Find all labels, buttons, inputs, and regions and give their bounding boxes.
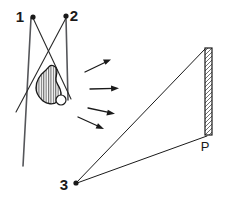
point-1-dot: [30, 14, 35, 19]
point-1-label: 1: [16, 8, 24, 25]
hatched-plate: [205, 48, 212, 135]
diagram-canvas: 1 2 3 P: [0, 0, 225, 200]
figure-container: 1 2 3 P: [0, 0, 225, 200]
arrow-up-right: [85, 60, 111, 73]
point-p-label: P: [201, 139, 210, 154]
point-3-dot: [73, 180, 78, 185]
arrow-down-right-2: [78, 117, 104, 129]
arrow-right: [90, 86, 119, 92]
ray-3-to-plate-top: [77, 49, 205, 182]
point-2-dot: [63, 13, 68, 18]
point-2-label: 2: [70, 7, 78, 24]
arrow-down-right-1: [88, 108, 115, 115]
ray-3-to-plate-bottom: [77, 136, 207, 183]
point-3-label: 3: [60, 176, 68, 193]
object-point-o-circle: [56, 95, 66, 105]
